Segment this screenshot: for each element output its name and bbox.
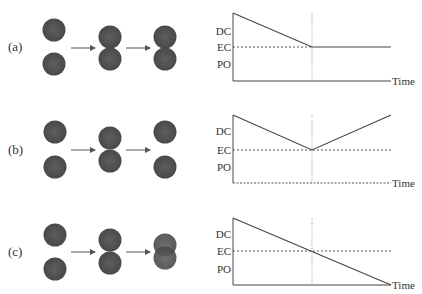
axis-label-po: PO	[217, 263, 231, 275]
sphere-icon	[99, 26, 122, 49]
sphere-icon	[99, 48, 122, 71]
axis-label-dc: DC	[216, 25, 231, 37]
x-axis-label-time: Time	[392, 177, 415, 189]
sphere-icon	[44, 156, 67, 179]
sphere-icon	[99, 150, 122, 173]
panel-label-b: (b)	[8, 142, 23, 157]
sphere-icon	[44, 224, 67, 247]
sphere-icon	[43, 19, 66, 42]
sphere-icon	[44, 121, 67, 144]
sphere-icon	[154, 121, 177, 144]
panel-label-c: (c)	[8, 244, 22, 259]
axis-label-ec: EC	[217, 41, 231, 53]
figure-canvas: (a) DC EC PO Time (b)	[0, 0, 422, 294]
sphere-icon	[154, 247, 177, 270]
axis-label-po: PO	[217, 58, 231, 70]
axis-label-ec: EC	[217, 144, 231, 156]
chart-c: DC EC PO Time	[216, 218, 415, 291]
panel-a: (a) DC EC PO Time	[8, 13, 415, 87]
sphere-icon	[99, 127, 122, 150]
sphere-icon	[154, 156, 177, 179]
spheres-a	[43, 19, 177, 76]
sphere-icon	[43, 53, 66, 76]
panel-c: (c) DC EC PO Time	[8, 218, 415, 291]
axis-label-dc: DC	[216, 228, 231, 240]
spheres-b	[44, 121, 177, 179]
sphere-icon	[154, 48, 177, 71]
chart-a: DC EC PO Time	[216, 13, 415, 87]
panel-b: (b) DC EC PO Time	[8, 115, 415, 189]
chart-b: DC EC PO Time	[216, 115, 415, 189]
axis-label-po: PO	[217, 161, 231, 173]
sphere-icon	[99, 252, 122, 275]
sphere-icon	[99, 229, 122, 252]
spheres-c	[44, 224, 177, 281]
x-axis-label-time: Time	[392, 279, 415, 291]
axis-label-ec: EC	[217, 245, 231, 257]
x-axis-label-time: Time	[392, 75, 415, 87]
panel-label-a: (a)	[8, 39, 22, 54]
axis-label-dc: DC	[216, 125, 231, 137]
sphere-icon	[44, 258, 67, 281]
sphere-icon	[154, 26, 177, 49]
